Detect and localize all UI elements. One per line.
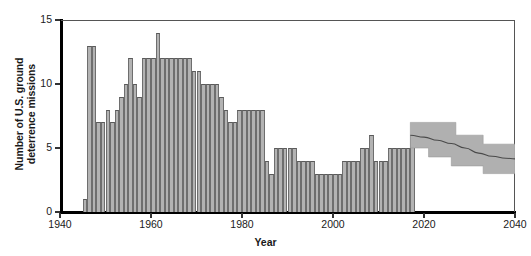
x-tick-label-1980: 1980 [222,218,262,230]
x-axis-label: Year [0,236,531,248]
chart-figure: Number of U.S. ground deterrence mission… [0,0,531,256]
x-tick-label-2020: 2020 [404,218,444,230]
x-tick-label-2040: 2040 [495,218,531,230]
y-tick-value: 10 [30,77,52,89]
y-tick-value: 5 [30,141,52,153]
y-axis-label: Number of U.S. ground deterrence mission… [14,6,36,222]
projection-band [60,20,515,212]
y-tick-value: 0 [30,205,52,217]
plot-area [60,20,515,212]
x-tick-label-1940: 1940 [40,218,80,230]
x-tick-label-2000: 2000 [313,218,353,230]
y-tick-value: 15 [30,13,52,25]
x-tick-label-1960: 1960 [131,218,171,230]
